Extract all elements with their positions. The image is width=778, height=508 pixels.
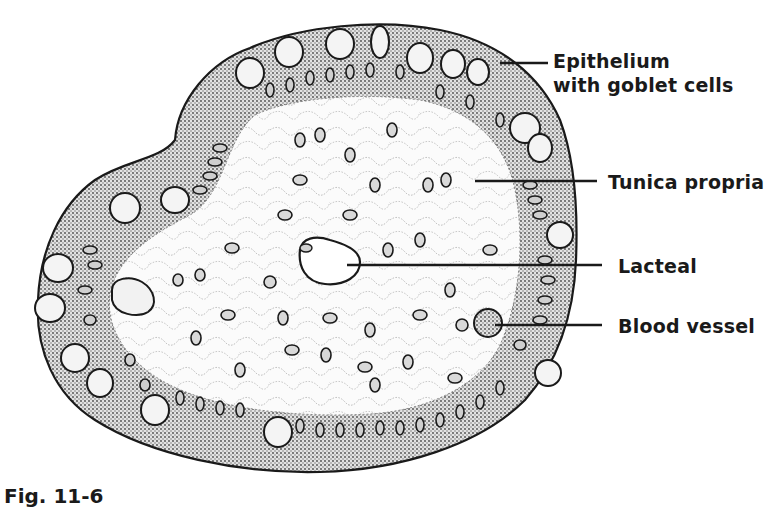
- label-epithelium-line1: Epithelium: [553, 49, 734, 73]
- lacteal-endothelial-nucleus: [300, 244, 312, 252]
- blood-vessel: [474, 309, 502, 337]
- label-epithelium: Epithelium with goblet cells: [553, 49, 734, 97]
- figure-caption: Fig. 11-6: [4, 484, 103, 508]
- label-epithelium-line2: with goblet cells: [553, 73, 734, 97]
- label-tunica-propria: Tunica propria: [608, 170, 764, 194]
- label-blood-vessel: Blood vessel: [618, 314, 755, 338]
- label-lacteal: Lacteal: [618, 254, 697, 278]
